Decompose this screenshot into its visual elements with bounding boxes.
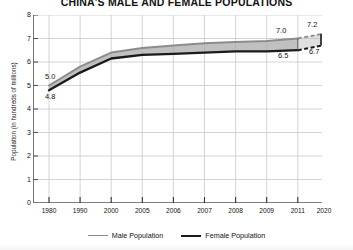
male-line-swatch-icon bbox=[88, 235, 108, 236]
female-line-swatch-icon bbox=[181, 235, 201, 237]
value-label-female-2011: 6.5 bbox=[278, 52, 288, 60]
y-tick-3: 3 bbox=[15, 129, 31, 137]
y-tick-2: 2 bbox=[15, 152, 31, 160]
population-chart: CHINA'S MALE AND FEMALE POPULATIONS Popu… bbox=[0, 0, 353, 250]
legend-item-female-population: Female Population bbox=[181, 231, 265, 240]
value-label-male-2020: 7.2 bbox=[307, 21, 317, 29]
x-axis-tick-labels: 1980 1990 2000 2005 2006 2007 2008 2009 … bbox=[33, 206, 322, 220]
y-tick-7: 7 bbox=[15, 35, 31, 43]
legend-label-male: Male Population bbox=[112, 231, 164, 240]
y-tick-8: 8 bbox=[15, 11, 31, 19]
x-axis-ticks bbox=[49, 197, 298, 203]
legend-label-female: Female Population bbox=[205, 231, 265, 240]
scan-artifact-strip bbox=[0, 244, 353, 250]
y-tick-5: 5 bbox=[15, 82, 31, 90]
chart-legend: Male Population Female Population bbox=[0, 231, 353, 240]
y-tick-1: 1 bbox=[15, 176, 31, 184]
value-label-female-1980: 4.8 bbox=[45, 93, 55, 101]
chart-title: CHINA'S MALE AND FEMALE POPULATIONS bbox=[0, 0, 353, 8]
y-tick-4: 4 bbox=[15, 105, 31, 113]
y-axis-tick-labels: 8 7 6 5 4 3 2 1 0 bbox=[13, 15, 31, 203]
y-tick-6: 6 bbox=[15, 58, 31, 66]
value-label-male-2011: 7.0 bbox=[276, 27, 286, 35]
plot-area: 5.0 4.8 7.0 6.5 7.2 6.7 bbox=[33, 15, 322, 203]
value-label-female-2020: 6.7 bbox=[309, 48, 319, 56]
x-tick-2020: 2020 bbox=[304, 206, 344, 216]
legend-item-male-population: Male Population bbox=[88, 231, 164, 240]
value-label-male-1980: 5.0 bbox=[45, 73, 55, 81]
plot-svg bbox=[33, 15, 322, 203]
